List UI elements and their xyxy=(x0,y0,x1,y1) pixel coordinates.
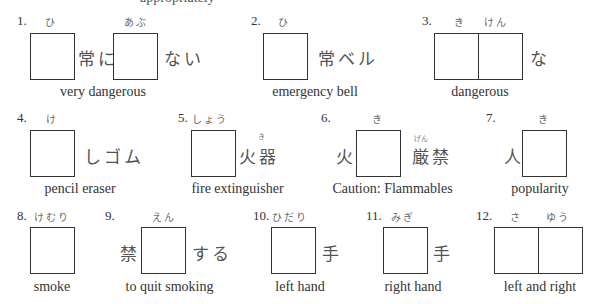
item-number: 12. xyxy=(476,208,492,224)
item-caption: pencil eraser xyxy=(30,181,130,197)
item-caption: dangerous xyxy=(440,84,520,100)
item-caption: to quit smoking xyxy=(122,279,217,295)
kanji-text: 手 xyxy=(433,240,453,265)
kanji-answer-box[interactable] xyxy=(494,227,539,274)
kanji-answer-box[interactable] xyxy=(263,33,308,80)
kanji-text: 厳禁 xyxy=(412,143,452,168)
furigana: みぎ xyxy=(391,209,415,224)
item-caption: very dangerous xyxy=(40,84,166,100)
instruction-text-partial: appropriately xyxy=(140,0,215,6)
furigana: ゆう xyxy=(546,209,570,224)
furigana: け xyxy=(46,111,58,126)
item-number: 2. xyxy=(251,13,261,29)
kanji-answer-box[interactable] xyxy=(271,227,316,274)
item-caption: Caution: Flammables xyxy=(330,181,455,197)
small-furigana: き xyxy=(258,131,265,141)
kanji-text: 火 xyxy=(336,143,356,168)
furigana: き xyxy=(372,111,384,126)
kanji-answer-box[interactable] xyxy=(356,130,401,177)
furigana: ひ xyxy=(45,14,57,29)
kanji-answer-box[interactable] xyxy=(191,130,236,177)
item-number: 10. xyxy=(253,208,269,224)
kanji-text: 常に xyxy=(78,45,118,70)
kanji-answer-box[interactable] xyxy=(522,130,567,177)
kanji-answer-box[interactable] xyxy=(30,33,75,80)
item-number: 9. xyxy=(105,208,115,224)
furigana: ひ xyxy=(278,14,290,29)
furigana: き xyxy=(454,14,466,29)
item-caption: emergency bell xyxy=(260,84,370,100)
kanji-answer-box[interactable] xyxy=(434,33,479,80)
item-number: 8. xyxy=(17,208,27,224)
item-caption: popularity xyxy=(505,181,575,197)
furigana: けん xyxy=(484,14,508,29)
furigana: しょう xyxy=(192,111,228,126)
item-number: 5. xyxy=(178,110,188,126)
kanji-text: な xyxy=(530,45,550,70)
kanji-text: する xyxy=(192,240,232,265)
item-number: 6. xyxy=(321,110,331,126)
item-number: 1. xyxy=(17,13,27,29)
kanji-answer-box[interactable] xyxy=(30,227,75,274)
item-caption: left hand xyxy=(265,279,335,295)
kanji-text: 人 xyxy=(504,143,524,168)
kanji-answer-box[interactable] xyxy=(113,33,158,80)
furigana: あぶ xyxy=(124,14,148,29)
kanji-text: ない xyxy=(164,45,204,70)
item-number: 11. xyxy=(366,208,382,224)
kanji-answer-box[interactable] xyxy=(141,227,186,274)
item-caption: fire extinguisher xyxy=(185,181,290,197)
item-number: 4. xyxy=(17,110,27,126)
kanji-answer-box[interactable] xyxy=(383,227,428,274)
kanji-text: 火器 xyxy=(239,143,279,168)
kanji-answer-box[interactable] xyxy=(478,33,523,80)
item-number: 3. xyxy=(422,13,432,29)
item-caption: right hand xyxy=(378,279,448,295)
furigana: ひだり xyxy=(272,209,308,224)
furigana: けむり xyxy=(34,209,70,224)
furigana: えん xyxy=(152,209,176,224)
furigana: さ xyxy=(510,209,522,224)
item-number: 7. xyxy=(486,110,496,126)
kanji-text: 常ベル xyxy=(318,45,378,70)
item-caption: left and right xyxy=(500,279,580,295)
kanji-text: 手 xyxy=(322,240,342,265)
kanji-text: しゴム xyxy=(84,143,144,168)
item-caption: smoke xyxy=(22,279,82,295)
kanji-answer-box[interactable] xyxy=(538,227,583,274)
kanji-text: 禁 xyxy=(120,240,140,265)
kanji-answer-box[interactable] xyxy=(30,130,75,177)
furigana: き xyxy=(538,111,550,126)
small-furigana: げん xyxy=(414,133,428,143)
